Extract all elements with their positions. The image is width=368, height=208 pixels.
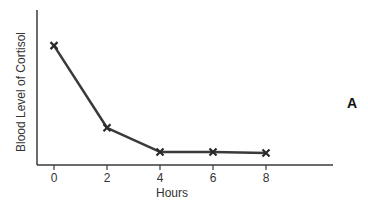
x-ticks: 02468 (51, 165, 270, 185)
x-tick-label: 4 (157, 171, 164, 185)
x-tick-label: 8 (263, 171, 270, 185)
x-marker-icon (51, 42, 58, 49)
x-axis-title: Hours (156, 186, 188, 200)
panel-label: A (347, 95, 357, 111)
x-tick-label: 6 (210, 171, 217, 185)
data-line (54, 46, 266, 153)
x-tick-label: 0 (51, 171, 58, 185)
plot-area (51, 42, 270, 156)
y-axis-title: Blood Level of Cortisol (14, 32, 28, 152)
cortisol-line-chart: 02468 Hours Blood Level of Cortisol A (0, 0, 368, 208)
x-tick-label: 2 (104, 171, 111, 185)
